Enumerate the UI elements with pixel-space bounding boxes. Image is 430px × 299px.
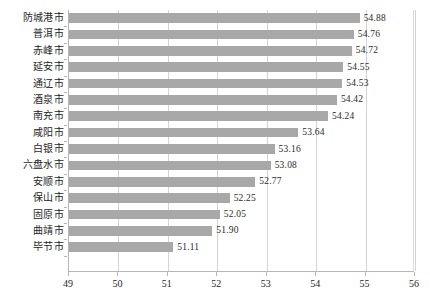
category-tick [64, 190, 67, 191]
value-axis-label: 55 [360, 277, 370, 291]
value-axis-label: 56 [409, 277, 419, 291]
bar-value-label: 54.76 [358, 27, 380, 42]
category-label: 毕节市 [33, 239, 64, 255]
category-axis: 防城港市普洱市赤峰市延安市通辽市酒泉市南充市咸阳市白银市六盘水市安顺市保山市固原… [0, 10, 64, 272]
bar [69, 144, 275, 154]
category-label: 安顺市 [33, 174, 64, 190]
bar [69, 161, 271, 171]
value-axis-tick [167, 272, 168, 276]
value-axis: 4950515253545556 [0, 272, 430, 299]
bar-row: 54.72 [69, 43, 413, 59]
bar [69, 30, 354, 40]
bar [69, 62, 343, 72]
category-tick [64, 141, 67, 142]
bar [69, 128, 298, 138]
value-axis-tick [414, 272, 415, 276]
bar [69, 46, 352, 56]
value-axis-label: 50 [112, 277, 122, 291]
category-tick [64, 207, 67, 208]
category-tick [64, 92, 67, 93]
bar-value-label: 54.72 [356, 43, 378, 58]
value-axis-label: 49 [63, 277, 73, 291]
bar-value-label: 54.42 [341, 92, 363, 107]
category-tick [64, 256, 67, 257]
bar-value-label: 54.24 [332, 109, 354, 124]
category-tick [64, 125, 67, 126]
category-tick [64, 174, 67, 175]
bar-chart: 防城港市普洱市赤峰市延安市通辽市酒泉市南充市咸阳市白银市六盘水市安顺市保山市固原… [0, 0, 430, 299]
category-tick [64, 43, 67, 44]
bar-value-label: 54.53 [346, 76, 368, 91]
bar [69, 242, 173, 252]
bar-row: 53.64 [69, 125, 413, 141]
category-tick [64, 59, 67, 60]
bar-row: 51.11 [69, 239, 413, 255]
value-axis-tick [68, 272, 69, 276]
category-label: 防城港市 [23, 10, 64, 26]
category-label: 六盘水市 [23, 157, 64, 173]
bar-row: 54.53 [69, 76, 413, 92]
category-label: 曲靖市 [33, 223, 64, 239]
category-tick [64, 26, 67, 27]
value-axis-tick [315, 272, 316, 276]
bar [69, 79, 342, 89]
category-tick [64, 223, 67, 224]
bar-value-label: 53.08 [275, 158, 297, 173]
value-axis-tick [216, 272, 217, 276]
value-axis-tick [365, 272, 366, 276]
bar [69, 210, 220, 220]
bar-value-label: 52.05 [224, 207, 246, 222]
bar-row: 51.90 [69, 223, 413, 239]
bar [69, 111, 328, 121]
bar-value-label: 53.16 [279, 142, 301, 157]
bar [69, 226, 212, 236]
category-tick [64, 76, 67, 77]
bar-row: 54.42 [69, 92, 413, 108]
bar-row: 53.08 [69, 157, 413, 173]
category-label: 咸阳市 [33, 125, 64, 141]
value-axis-tick [117, 272, 118, 276]
bar-row: 54.24 [69, 108, 413, 124]
category-label: 白银市 [33, 141, 64, 157]
category-label: 保山市 [33, 190, 64, 206]
category-label: 普洱市 [33, 26, 64, 42]
category-label: 固原市 [33, 207, 64, 223]
bar-row: 54.76 [69, 26, 413, 42]
bar [69, 13, 360, 23]
category-tick [64, 239, 67, 240]
bar-value-label: 51.90 [216, 223, 238, 238]
category-label: 酒泉市 [33, 92, 64, 108]
bar-value-label: 52.25 [234, 191, 256, 206]
value-axis-label: 52 [211, 277, 221, 291]
bar-value-label: 52.77 [259, 174, 281, 189]
bar-row: 54.55 [69, 59, 413, 75]
bar-row: 53.16 [69, 141, 413, 157]
plot-area: 54.8854.7654.7254.5554.5354.4254.2453.64… [68, 10, 414, 272]
category-tick [64, 157, 67, 158]
bar-rows: 54.8854.7654.7254.5554.5354.4254.2453.64… [69, 10, 413, 271]
bar-value-label: 54.88 [364, 11, 386, 26]
bar-value-label: 53.64 [302, 125, 324, 140]
category-label: 通辽市 [33, 76, 64, 92]
value-axis-label: 51 [162, 277, 172, 291]
bar-row: 52.77 [69, 174, 413, 190]
gridline [415, 10, 416, 271]
bar-row: 54.88 [69, 10, 413, 26]
bar-value-label: 51.11 [177, 240, 199, 255]
category-label: 延安市 [33, 59, 64, 75]
category-tick [64, 108, 67, 109]
bar [69, 193, 230, 203]
value-axis-label: 54 [310, 277, 320, 291]
bar [69, 95, 337, 105]
bar [69, 177, 255, 187]
value-axis-tick [266, 272, 267, 276]
category-label: 南充市 [33, 108, 64, 124]
bar-value-label: 54.55 [347, 60, 369, 75]
bar-row: 52.25 [69, 190, 413, 206]
bar-row: 52.05 [69, 207, 413, 223]
value-axis-label: 53 [261, 277, 271, 291]
category-label: 赤峰市 [33, 43, 64, 59]
